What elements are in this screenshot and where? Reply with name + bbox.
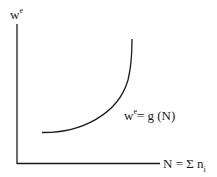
curve-g-of-n bbox=[42, 39, 132, 133]
y-axis-label: we bbox=[10, 8, 23, 21]
y-axis-label-base: w bbox=[10, 7, 19, 22]
curve-label-sup: e bbox=[133, 107, 137, 116]
y-axis-label-sup: e bbox=[19, 6, 23, 15]
x-axis-label-sub: i bbox=[204, 165, 206, 174]
x-axis-label-base: N = Σ n bbox=[163, 156, 204, 171]
curve-label-w: w bbox=[124, 108, 133, 123]
curve-label-rest: = g (N) bbox=[137, 108, 175, 123]
diagram-canvas bbox=[0, 0, 217, 177]
x-axis-label: N = Σ ni bbox=[163, 157, 206, 174]
curve-label: we= g (N) bbox=[124, 109, 175, 122]
